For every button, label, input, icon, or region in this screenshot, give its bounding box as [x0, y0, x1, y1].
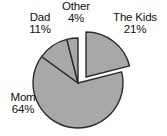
pie-label-mom: Mom 64% — [0, 92, 46, 115]
pie-label-mom-name: Mom — [0, 92, 46, 104]
pie-label-dad-name: Dad — [19, 12, 61, 24]
pie-label-dad: Dad 11% — [19, 12, 61, 35]
pie-chart: The Kids 21% Other 4% Dad 11% Mom 64% — [0, 0, 167, 136]
pie-label-other-name: Other — [54, 1, 98, 13]
pie-label-the-kids-name: The Kids — [104, 12, 166, 24]
pie-label-dad-percent: 11% — [19, 24, 61, 36]
pie-label-the-kids-percent: 21% — [104, 24, 166, 36]
pie-label-mom-percent: 64% — [0, 104, 46, 116]
pie-slice-the-kids[interactable] — [86, 32, 130, 77]
pie-label-the-kids: The Kids 21% — [104, 12, 166, 35]
